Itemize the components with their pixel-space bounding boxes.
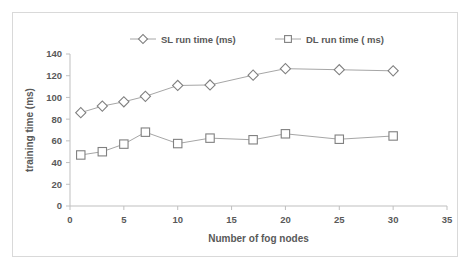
data-point bbox=[140, 91, 150, 101]
data-point bbox=[335, 135, 343, 143]
data-point bbox=[205, 80, 215, 90]
series-1 bbox=[76, 64, 399, 118]
screenshot-root: SL run time (ms)DL run time ( ms)0204060… bbox=[0, 0, 471, 273]
data-point bbox=[77, 151, 85, 159]
data-point bbox=[389, 132, 397, 140]
chart-frame: SL run time (ms)DL run time ( ms)0204060… bbox=[12, 12, 458, 257]
data-point bbox=[119, 97, 129, 107]
line-chart: SL run time (ms)DL run time ( ms)0204060… bbox=[13, 13, 457, 256]
x-tick-label-10: 10 bbox=[172, 214, 183, 225]
data-point bbox=[120, 140, 128, 148]
y-tick-label-140: 140 bbox=[46, 48, 62, 59]
chart-legend: SL run time (ms)DL run time ( ms) bbox=[130, 34, 384, 45]
data-point bbox=[281, 130, 289, 138]
y-tick-label-60: 60 bbox=[51, 135, 62, 146]
legend-marker-square-2 bbox=[285, 36, 292, 43]
x-tick-label-5: 5 bbox=[121, 214, 127, 225]
legend-marker-diamond-1 bbox=[138, 34, 147, 43]
y-tick-label-0: 0 bbox=[57, 200, 62, 211]
x-tick-label-15: 15 bbox=[226, 214, 237, 225]
data-point bbox=[248, 70, 258, 80]
data-point bbox=[98, 148, 106, 156]
data-point bbox=[76, 108, 86, 118]
series-2 bbox=[77, 128, 398, 159]
data-point bbox=[141, 128, 149, 136]
x-tick-label-0: 0 bbox=[67, 214, 72, 225]
y-tick-label-100: 100 bbox=[46, 92, 62, 103]
x-tick-label-20: 20 bbox=[280, 214, 291, 225]
legend-label-2: DL run time ( ms) bbox=[306, 34, 384, 45]
y-tick-label-120: 120 bbox=[46, 70, 62, 81]
x-tick-label-35: 35 bbox=[442, 214, 453, 225]
data-point bbox=[174, 139, 182, 147]
x-tick-label-25: 25 bbox=[334, 214, 345, 225]
series-line-1 bbox=[81, 69, 393, 113]
data-point bbox=[97, 101, 107, 111]
y-tick-label-20: 20 bbox=[51, 179, 62, 190]
legend-label-1: SL run time (ms) bbox=[161, 34, 236, 45]
legend-entry-2: DL run time ( ms) bbox=[275, 34, 384, 45]
data-point bbox=[206, 134, 214, 142]
data-point bbox=[249, 136, 257, 144]
data-point bbox=[334, 65, 344, 75]
data-point bbox=[280, 64, 290, 74]
data-point bbox=[388, 66, 398, 76]
data-point bbox=[173, 80, 183, 90]
x-axis-title: Number of fog nodes bbox=[208, 233, 309, 244]
y-tick-label-80: 80 bbox=[51, 114, 62, 125]
y-tick-label-40: 40 bbox=[51, 157, 62, 168]
legend-entry-1: SL run time (ms) bbox=[130, 34, 236, 45]
y-axis-title: training time (ms) bbox=[24, 88, 35, 172]
x-tick-label-30: 30 bbox=[388, 214, 399, 225]
